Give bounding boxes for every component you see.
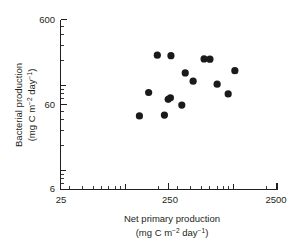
data-point: [214, 81, 221, 88]
y-axis-ticks: [61, 20, 68, 190]
x-unit-suffix: ): [205, 227, 208, 238]
x-axis-ticks: [61, 183, 278, 190]
data-point: [167, 94, 174, 101]
x-axis-units: (mg C m−2 day−1): [136, 227, 209, 239]
plot-canvas: 600 60 6 25 250 2500 Net primary product…: [0, 0, 291, 247]
y-unit-prefix: (mg C m: [26, 105, 37, 142]
x-tick-label-250: 250: [162, 194, 178, 205]
data-point: [206, 56, 213, 63]
data-point: [161, 112, 168, 119]
data-point: [225, 90, 232, 97]
x-unit-prefix: (mg C m: [136, 227, 173, 238]
data-point: [145, 89, 152, 96]
y-tick-label-60: 60: [44, 99, 55, 110]
x-axis-title: Net primary production: [124, 213, 220, 224]
data-point: [178, 102, 185, 109]
data-points: [136, 52, 239, 120]
data-point: [154, 52, 161, 59]
axes: [61, 20, 278, 190]
y-axis-title: Bacterial production: [13, 63, 24, 147]
data-point: [136, 112, 143, 119]
data-point: [190, 78, 197, 85]
data-point: [231, 67, 238, 74]
x-tick-label-2500: 2500: [265, 194, 286, 205]
y-tick-label-6: 6: [50, 183, 55, 194]
y-tick-label-600: 600: [39, 14, 55, 25]
y-unit-suffix: ): [26, 69, 37, 72]
y-unit-mid: day: [26, 79, 37, 97]
data-point: [182, 69, 189, 76]
data-point: [167, 52, 174, 59]
scatter-plot-figure: 600 60 6 25 250 2500 Net primary product…: [0, 0, 291, 247]
x-tick-label-25: 25: [56, 194, 67, 205]
x-unit-mid: day: [180, 227, 198, 238]
y-axis-units: (mg C m−2 day−1): [26, 69, 38, 142]
